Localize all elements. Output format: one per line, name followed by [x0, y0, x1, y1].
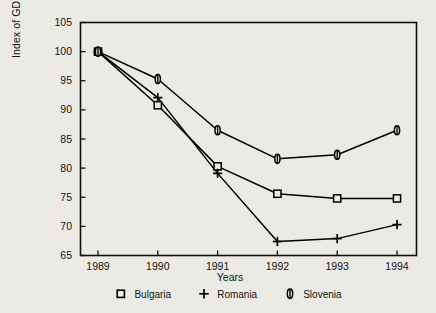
- series-line-romania: [98, 52, 397, 242]
- y-axis-tick-label: 90: [44, 104, 72, 114]
- y-axis-tick-label: 80: [44, 163, 72, 173]
- y-axis-tick-label: 85: [44, 134, 72, 144]
- legend-item: Romania: [197, 288, 257, 300]
- chart-legend: BulgariaRomaniaSlovenia: [0, 288, 436, 301]
- y-axis-tick-label: 100: [44, 46, 72, 56]
- y-axis-tick-label: 105: [44, 17, 72, 27]
- legend-marker-plus-icon: [197, 288, 211, 300]
- y-axis-tick-label: 70: [44, 221, 72, 231]
- marker-square: [154, 102, 161, 109]
- series-line-bulgaria: [98, 52, 397, 199]
- x-axis-tick-label: 1989: [76, 261, 120, 271]
- y-axis-tick-label: 75: [44, 192, 72, 202]
- x-axis-tick-label: 1992: [255, 261, 299, 271]
- plot-frame: [81, 23, 417, 256]
- legend-marker-square-icon: [114, 288, 128, 300]
- marker-square: [274, 190, 281, 197]
- legend-item: Bulgaria: [114, 288, 171, 300]
- marker-square: [393, 195, 400, 202]
- legend-label: Romania: [217, 289, 257, 300]
- marker-square: [334, 195, 341, 202]
- legend-label: Slovenia: [303, 289, 341, 300]
- x-axis-tick-label: 1991: [196, 261, 240, 271]
- y-axis-tick-label: 65: [44, 250, 72, 260]
- legend-marker-oval-icon: [283, 288, 297, 300]
- x-axis-tick-label: 1993: [315, 261, 359, 271]
- y-axis-label: Index of GDP change (1989=100): [10, 0, 24, 58]
- legend-item: Slovenia: [283, 288, 341, 300]
- x-axis-label: Years: [0, 271, 436, 283]
- x-axis-tick-label: 1990: [136, 261, 180, 271]
- gdp-index-line-chart: Index of GDP change (1989=100) 657075808…: [0, 0, 436, 313]
- x-axis-tick-label: 1994: [375, 261, 419, 271]
- legend-label: Bulgaria: [134, 289, 171, 300]
- y-axis-tick-label: 95: [44, 75, 72, 85]
- x-axis-label-text: Years: [217, 271, 243, 283]
- series-line-slovenia: [98, 52, 397, 159]
